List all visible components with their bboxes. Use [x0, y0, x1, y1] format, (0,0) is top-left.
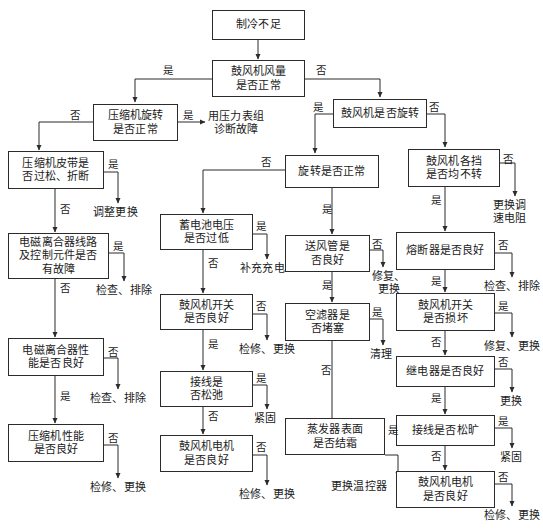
- node-text: 电磁离合器线路: [19, 236, 97, 249]
- terminal-fix-replace-duct: 修复、 更换: [372, 270, 406, 297]
- edge-label-wiring-right-no: 否: [431, 452, 441, 463]
- node-text: 是否正常: [236, 79, 281, 92]
- node-compressor-belt[interactable]: 压缩机皮带是 否过松、折断: [8, 151, 104, 189]
- edge-label-battery-yes: 是: [256, 222, 266, 233]
- node-text: 是否损坏: [423, 312, 468, 325]
- terminal-tighten-mid: 紧固: [254, 412, 276, 425]
- terminal-check-clear-1: 检查、排除: [96, 284, 152, 297]
- node-text: 否良好: [311, 254, 345, 267]
- node-air-filter[interactable]: 空滤器是 否堵塞: [285, 303, 370, 341]
- node-battery-voltage[interactable]: 蓄电池电压 是否过低: [160, 214, 253, 250]
- node-compressor-rotation[interactable]: 压缩机旋转 是否正常: [93, 104, 178, 141]
- node-text: 鼓风机电机: [418, 476, 474, 489]
- terminal-adjust-replace: 调整更换: [93, 206, 138, 219]
- edge-label-clutch-circuit-yes: 是: [113, 242, 123, 253]
- node-blower-gears[interactable]: 鼓风机各挡 是否均不转: [408, 149, 500, 187]
- edge-label-motor-right-no: 否: [498, 473, 508, 484]
- edge-label-blower-spin-yes: 是: [313, 103, 323, 114]
- edge-label-wiring-right-yes: 是: [498, 417, 508, 428]
- terminal-check-clear-2: 检查、排除: [90, 392, 146, 405]
- edge-label-switch-dmg-yes: 是: [498, 302, 508, 313]
- edge-label-gears-no: 否: [503, 155, 513, 166]
- edge-label-switch-ok-yes: 是: [208, 340, 218, 351]
- node-text: 蒸发器表面: [307, 423, 363, 436]
- terminal-replace-relay: 更换: [500, 395, 522, 408]
- edge-label-motor-mid-no: 否: [256, 443, 266, 454]
- node-blower-spin[interactable]: 鼓风机是否旋转: [333, 99, 427, 128]
- node-text: 是否良好: [34, 443, 79, 456]
- node-blower-switch-damaged[interactable]: 鼓风机开关 是否损坏: [396, 293, 495, 331]
- node-text: 制冷不足: [236, 18, 281, 31]
- node-text: 压缩机性能: [28, 430, 84, 443]
- edge-label-clutch-circuit-no: 否: [60, 284, 70, 295]
- edge-label-evap-yes: 是: [388, 426, 398, 437]
- node-text: 鼓风机是否旋转: [341, 107, 419, 120]
- node-text: 熔断器是否良好: [406, 244, 484, 257]
- edge-label-duct-no: 否: [372, 240, 382, 251]
- edge-label-relay-yes: 是: [431, 394, 441, 405]
- edge-label-belt-no: 否: [60, 205, 70, 216]
- edge-label-fuse-yes: 是: [431, 277, 441, 288]
- node-text: 是否结霜: [313, 437, 358, 450]
- edge-label-comp-rotate-yes: 是: [183, 111, 193, 122]
- node-text: 电磁离合器性: [22, 344, 89, 357]
- node-text: 压缩机皮带是: [22, 157, 89, 170]
- edge-label-comp-rotate-no: 否: [70, 111, 80, 122]
- edge-label-switch-ok-no: 否: [256, 302, 266, 313]
- edge-label-spin-normal-yes: 是: [322, 205, 332, 216]
- node-spin-normal[interactable]: 旋转是否正常: [285, 155, 379, 188]
- node-blower-airflow[interactable]: 鼓风机风量 是否正常: [212, 60, 305, 97]
- node-text: 鼓风机开关: [179, 299, 235, 312]
- node-text: 是否良好: [184, 312, 229, 325]
- node-relay[interactable]: 继电器是否良好: [396, 356, 495, 387]
- terminal-fix-replace-switch: 修复、更换: [484, 340, 540, 353]
- node-compressor-performance[interactable]: 压缩机性能 是否良好: [8, 424, 104, 462]
- node-start[interactable]: 制冷不足: [212, 10, 305, 40]
- node-wiring-loose-right[interactable]: 接线是否松旷: [396, 415, 495, 446]
- node-text: 鼓风机各挡: [426, 155, 482, 168]
- node-text: 是否正常: [113, 123, 158, 136]
- node-text: 是否过低: [184, 232, 229, 245]
- edge-label-wiring-mid-yes: 是: [256, 374, 266, 385]
- edge-label-gears-yes: 是: [431, 196, 441, 207]
- node-evaporator-frost[interactable]: 蒸发器表面 是否结霜: [285, 418, 385, 455]
- node-text: 送风管是: [305, 240, 350, 253]
- edge-label-blower-spin-no: 否: [429, 103, 439, 114]
- node-text: 否堵塞: [311, 322, 345, 335]
- terminal-recharge: 补充充电: [240, 262, 285, 275]
- terminal-pressure-gauge: 用压力表组 诊断故障: [208, 110, 264, 137]
- edge-label-battery-no: 否: [208, 259, 218, 270]
- edge-label-airflow-yes: 是: [163, 66, 173, 77]
- node-text: 鼓风机开关: [418, 299, 474, 312]
- edge-label-comp-perf-no: 否: [108, 434, 118, 445]
- node-text: 旋转是否正常: [298, 165, 365, 178]
- edge-label-airflow-no: 否: [316, 66, 326, 77]
- node-wiring-loose-middle[interactable]: 接线是 否松弛: [160, 371, 253, 407]
- node-blower-motor-right[interactable]: 鼓风机电机 是否良好: [396, 471, 495, 508]
- node-text: 及控制元件是否: [19, 249, 97, 262]
- node-text: 接线是: [190, 376, 224, 389]
- edge-label-clutch-perf-yes: 是: [60, 392, 70, 403]
- node-text: 否松弛: [190, 389, 224, 402]
- node-text: 是否良好: [423, 490, 468, 503]
- node-text: 空滤器是: [305, 309, 350, 322]
- edge-label-wiring-mid-no: 否: [208, 412, 218, 423]
- node-text: 能是否良好: [28, 357, 84, 370]
- terminal-repair-replace-mid1: 检修、更换: [239, 343, 295, 356]
- node-clutch-performance[interactable]: 电磁离合器性 能是否良好: [8, 338, 104, 376]
- edge-label-clutch-perf-no: 否: [108, 348, 118, 359]
- flowchart-canvas: 制冷不足 鼓风机风量 是否正常 压缩机旋转 是否正常 压缩机皮带是 否过松、折断…: [0, 0, 543, 532]
- node-text: 蓄电池电压: [179, 219, 235, 232]
- terminal-check-clear-right: 检查、排除: [484, 280, 540, 293]
- node-text: 否过松、折断: [22, 170, 89, 183]
- terminal-clean: 清理: [370, 348, 392, 361]
- node-blower-motor-middle[interactable]: 鼓风机电机 是否良好: [160, 435, 253, 472]
- terminal-replace-thermostat: 更换温控器: [331, 480, 387, 493]
- edge-label-relay-no: 否: [498, 358, 508, 369]
- node-fuse[interactable]: 熔断器是否良好: [396, 232, 495, 270]
- terminal-repair-replace-right: 检修、更换: [484, 509, 540, 522]
- node-text: 鼓风机电机: [179, 440, 235, 453]
- node-clutch-circuit[interactable]: 电磁离合器线路 及控制元件是否 有故障: [8, 233, 109, 279]
- node-air-duct[interactable]: 送风管是 否良好: [285, 235, 370, 272]
- node-blower-switch-ok[interactable]: 鼓风机开关 是否良好: [160, 294, 253, 330]
